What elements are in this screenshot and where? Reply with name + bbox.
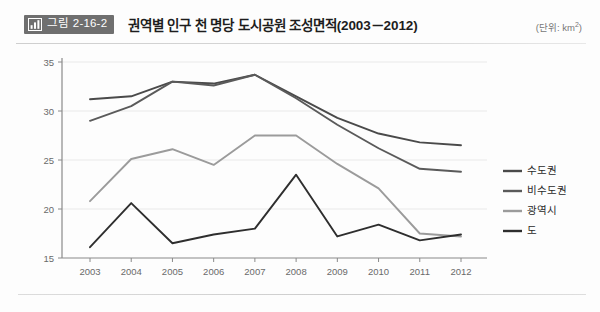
- x-tick-label: 2009: [327, 266, 348, 277]
- footer-divider: [18, 294, 586, 295]
- unit-prefix: (단위: km: [536, 22, 575, 33]
- series-line: [90, 175, 461, 248]
- figure-number-badge: 그림 2-16-2: [24, 15, 114, 34]
- chart-area: 1520253035200320042005200620072008200920…: [0, 44, 600, 284]
- figure-panel: 그림 2-16-2 권역별 인구 천 명당 도시공원 조성면적(2003－201…: [0, 0, 600, 312]
- x-tick-label: 2011: [410, 266, 430, 277]
- y-tick-label: 35: [43, 57, 54, 68]
- x-tick-label: 2006: [203, 266, 224, 277]
- y-tick-label: 25: [43, 155, 54, 166]
- legend-label: 도: [527, 224, 537, 236]
- x-tick-label: 2008: [286, 266, 307, 277]
- x-tick-label: 2005: [162, 266, 183, 277]
- legend-label: 수도권: [527, 164, 557, 176]
- figure-header: 그림 2-16-2 권역별 인구 천 명당 도시공원 조성면적(2003－201…: [0, 0, 600, 44]
- figure-title: 권역별 인구 천 명당 도시공원 조성면적(2003－2012): [128, 14, 418, 34]
- x-tick-label: 2007: [244, 266, 265, 277]
- unit-suffix: ): [579, 22, 582, 33]
- y-tick-label: 15: [43, 253, 54, 264]
- line-chart: 1520253035200320042005200620072008200920…: [0, 44, 600, 284]
- x-tick-label: 2004: [121, 266, 142, 277]
- x-tick-label: 2003: [79, 266, 100, 277]
- series-line: [90, 136, 461, 237]
- y-tick-label: 30: [43, 106, 54, 117]
- series-line: [90, 75, 461, 172]
- legend-label: 비수도권: [527, 184, 567, 196]
- bar-chart-icon: [28, 18, 42, 31]
- legend-label: 광역시: [527, 204, 557, 216]
- figure-number-label: 그림 2-16-2: [47, 18, 107, 31]
- unit-label: (단위: km2): [536, 20, 582, 34]
- y-tick-label: 20: [43, 204, 54, 215]
- x-tick-label: 2010: [368, 266, 389, 277]
- x-tick-label: 2012: [450, 266, 471, 277]
